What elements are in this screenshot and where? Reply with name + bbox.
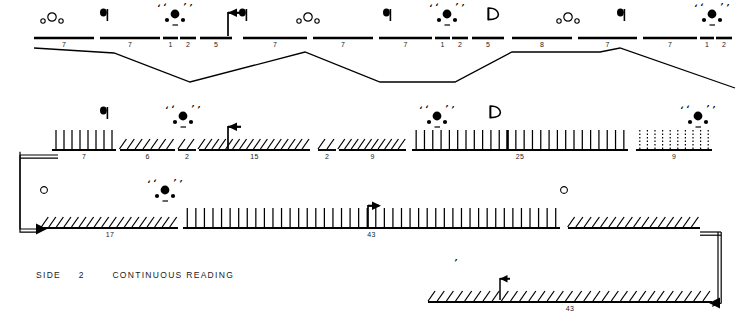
filled-dot-icon: [171, 194, 175, 198]
tick-slant: [274, 139, 281, 149]
filled-dot-icon: [181, 18, 185, 22]
quote-tick-icon: ’: [173, 177, 176, 188]
segment-count-label: 5: [214, 41, 218, 48]
tick-slant: [630, 291, 637, 301]
quote-tick-icon: ’: [455, 1, 458, 12]
tick-slant: [675, 291, 682, 301]
tick-slant: [584, 217, 591, 227]
quote-tick-icon: ‘: [157, 2, 160, 13]
segment-count-label: 8: [540, 41, 544, 48]
tick-slant: [288, 139, 295, 149]
tick-slant: [556, 291, 563, 301]
tick-slant: [281, 139, 288, 149]
tick-group-slant: [568, 217, 699, 227]
segment-count-label: 9: [672, 153, 676, 160]
open-circle-icon: [41, 19, 45, 23]
open-circle-icon: [561, 187, 568, 194]
tick-slant: [611, 291, 618, 301]
segment-count-label: 7: [341, 41, 345, 48]
tick-group-dotted: [640, 130, 708, 149]
tick-slant: [492, 291, 499, 301]
open-circle-icon: [297, 19, 301, 23]
d-bowl: [488, 8, 498, 20]
segment-count-label: 1: [168, 41, 172, 48]
caption-mode-label: CONTINUOUS READING: [112, 270, 234, 280]
tick-slant: [465, 291, 472, 301]
segment-count-label: 9: [370, 153, 374, 160]
tick-slant: [117, 217, 124, 227]
marker-arrow-right-flag: [368, 202, 381, 227]
quote-tick-icon: ‘: [165, 104, 168, 115]
arrow-head-left-icon: [228, 9, 237, 17]
quote-tick-icon: ‘: [153, 177, 156, 188]
caption-side-label: SIDE: [36, 270, 61, 280]
open-circle-icon: [48, 13, 56, 21]
tick-slant: [538, 291, 545, 301]
tick-slant: [253, 139, 260, 149]
bracket-arrow-head-icon: [709, 298, 720, 309]
open-circle-icon: [557, 19, 561, 23]
open-circle-icon: [41, 187, 48, 194]
quote-tick-icon: ‘: [163, 1, 166, 12]
segment-count-label: 7: [82, 153, 86, 160]
arrow-head-right-icon: [372, 202, 381, 210]
marker-hollow-circle: [41, 187, 48, 194]
tick-slant: [187, 139, 194, 149]
quote-tick-icon: ’: [183, 1, 186, 12]
tick-slant: [584, 291, 591, 301]
filled-dot-icon: [179, 112, 188, 121]
quote-tick-icon: ’: [712, 104, 715, 115]
tick-slant: [634, 217, 641, 227]
segment-count-label: 1: [440, 41, 444, 48]
filled-dot-icon: [708, 10, 717, 19]
tick-slant: [593, 291, 600, 301]
marker-dot-cluster: ‘‘’’: [165, 103, 200, 127]
tick-slant: [109, 217, 116, 227]
tick-slant: [398, 139, 405, 149]
filled-dot-icon: [453, 18, 457, 22]
tick-slant: [143, 139, 150, 149]
tick-slant: [56, 217, 63, 227]
tick-slant: [226, 139, 233, 149]
segment-count-label: 2: [325, 153, 329, 160]
d-bowl: [490, 106, 500, 118]
marker-dot-cluster: ‘‘’’: [694, 1, 729, 25]
tick-slant: [267, 139, 274, 149]
tick-slant: [371, 139, 378, 149]
zigzag-connector: [34, 48, 735, 88]
marker-d-flag: [490, 106, 500, 118]
marker-hollow-circle: [561, 187, 568, 194]
marker-open-circle-cluster: [557, 13, 579, 23]
quote-tick-icon: ’: [445, 103, 448, 114]
caption-side-number: 2: [79, 270, 85, 280]
bracket-line: [20, 152, 38, 232]
segment-count-label: 43: [566, 305, 574, 312]
segment-count-label: 7: [128, 41, 132, 48]
tick-slant: [127, 139, 134, 149]
tick-slant: [428, 291, 435, 301]
tick-slant: [446, 291, 453, 301]
tick-slant: [576, 217, 583, 227]
arrow-head-left-icon: [500, 275, 508, 283]
tick-slant: [685, 291, 692, 301]
marker-q-flag: [100, 107, 107, 119]
tick-slant: [501, 291, 508, 301]
tick-slant: [132, 217, 139, 227]
tick-group-slant: [318, 139, 334, 149]
filled-dot-icon: [173, 120, 177, 124]
tick-slant: [703, 291, 710, 301]
marker-dot-cluster: ‘‘’’: [429, 1, 464, 25]
tick-slant: [119, 139, 126, 149]
q-bowl: [100, 9, 107, 17]
filled-dot-icon: [155, 194, 159, 198]
marker-q-flag: [383, 9, 390, 21]
tick-slant: [260, 139, 267, 149]
tick-slant: [365, 139, 372, 149]
tick-slant: [694, 291, 701, 301]
tick-slant: [575, 291, 582, 301]
tick-slant: [639, 291, 646, 301]
quote-tick-icon: ‘: [429, 2, 432, 13]
quote-tick-icon: ’: [197, 104, 200, 115]
tick-slant: [483, 291, 490, 301]
segment-count-label: 7: [403, 41, 407, 48]
